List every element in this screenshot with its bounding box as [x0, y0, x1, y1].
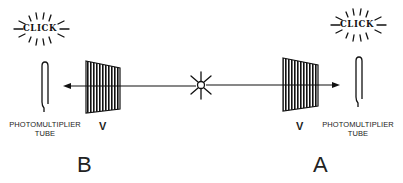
pmt-label-left: PHOTOMULTIPLIER TUBE — [0, 121, 90, 138]
pmt-label-right: PHOTOMULTIPLIER TUBE — [313, 121, 403, 138]
pmt-label-left-line2: TUBE — [0, 130, 90, 139]
arrow-right-icon — [332, 82, 340, 88]
click-text-right: CLICK — [340, 19, 374, 29]
station-label-a: A — [313, 152, 328, 177]
photomultiplier-tube-right — [356, 57, 362, 107]
photomultiplier-tube-left — [42, 62, 48, 112]
polarizer-label-right: V — [296, 120, 303, 133]
polarizer-left — [86, 61, 120, 113]
station-label-b: B — [77, 152, 92, 177]
polarizer-label-left: V — [99, 120, 106, 133]
pmt-label-right-line2: TUBE — [313, 130, 403, 139]
click-text-left: CLICK — [23, 23, 57, 33]
arrow-left-icon — [63, 83, 71, 89]
